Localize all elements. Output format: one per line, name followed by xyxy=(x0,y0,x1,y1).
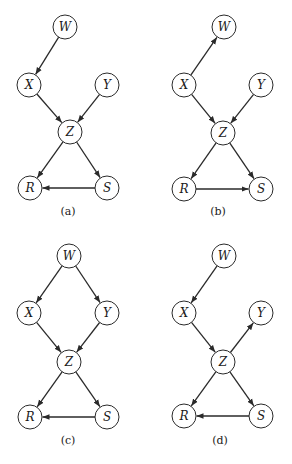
edge-z-to-r xyxy=(191,372,216,406)
panel-c: WXYZRS(c) xyxy=(17,244,119,447)
node-label: W xyxy=(218,20,232,34)
edge-z-to-s xyxy=(230,372,254,406)
node-x: X xyxy=(17,73,41,97)
edge-z-to-r xyxy=(37,142,63,178)
node-label: Y xyxy=(257,306,266,320)
node-label: X xyxy=(179,306,189,320)
node-label: R xyxy=(178,182,188,196)
edge-w-to-x xyxy=(36,266,62,303)
node-r: R xyxy=(172,404,196,428)
panel-b: WXYZRS(b) xyxy=(172,15,273,218)
node-label: Y xyxy=(103,78,112,92)
node-label: S xyxy=(103,410,111,424)
node-label: Y xyxy=(103,306,112,320)
node-s: S xyxy=(249,404,273,428)
panel-caption: (b) xyxy=(210,205,226,218)
edge-z-to-r xyxy=(191,143,216,179)
node-label: Z xyxy=(65,125,75,139)
edge-x-to-z xyxy=(37,94,62,123)
node-label: X xyxy=(24,306,34,320)
node-label: R xyxy=(24,181,34,195)
node-label: S xyxy=(257,409,265,423)
edge-z-to-s xyxy=(77,142,101,178)
node-label: S xyxy=(103,181,111,195)
node-s: S xyxy=(249,177,273,201)
edge-y-to-z xyxy=(78,94,100,122)
node-w: W xyxy=(53,15,77,39)
edge-x-to-z xyxy=(37,322,62,352)
node-w: W xyxy=(212,15,236,39)
panel-caption: (c) xyxy=(61,434,76,447)
node-y: Y xyxy=(95,73,119,97)
node-y: Y xyxy=(249,301,273,325)
node-label: Z xyxy=(218,355,228,369)
node-z: Z xyxy=(211,350,235,374)
edge-w-to-x xyxy=(36,37,59,74)
edge-x-to-z xyxy=(192,94,216,123)
node-r: R xyxy=(18,405,42,429)
node-label: W xyxy=(63,249,77,263)
panel-caption: (a) xyxy=(60,205,75,218)
edge-w-to-x xyxy=(191,266,217,303)
edge-x-to-z xyxy=(192,322,216,352)
edge-z-to-s xyxy=(76,372,100,407)
edge-y-to-z xyxy=(77,323,100,353)
edge-z-to-s xyxy=(230,143,254,179)
node-s: S xyxy=(95,405,119,429)
node-label: Y xyxy=(257,78,266,92)
node-label: W xyxy=(59,20,73,34)
edge-w-to-y xyxy=(76,266,100,303)
node-r: R xyxy=(18,176,42,200)
panels-root: WXYZRS(a)WXYZRS(b)WXYZRS(c)WXYZRS(d) xyxy=(17,15,273,447)
node-label: R xyxy=(178,409,188,423)
node-w: W xyxy=(212,244,236,268)
node-label: R xyxy=(24,410,34,424)
node-x: X xyxy=(172,301,196,325)
panel-a: WXYZRS(a) xyxy=(17,15,119,218)
node-label: W xyxy=(218,249,232,263)
node-label: Z xyxy=(64,355,74,369)
node-w: W xyxy=(57,244,81,268)
node-y: Y xyxy=(95,301,119,325)
edge-y-to-z xyxy=(231,94,254,123)
node-label: Z xyxy=(218,126,228,140)
node-s: S xyxy=(95,176,119,200)
node-label: X xyxy=(179,78,189,92)
node-z: Z xyxy=(58,120,82,144)
panel-d: WXYZRS(d) xyxy=(172,244,273,447)
node-r: R xyxy=(172,177,196,201)
edge-z-to-y xyxy=(230,323,253,353)
node-label: X xyxy=(24,78,34,92)
edge-z-to-r xyxy=(37,372,62,407)
node-z: Z xyxy=(211,121,235,145)
edge-x-to-w xyxy=(191,37,217,75)
node-z: Z xyxy=(57,350,81,374)
node-x: X xyxy=(172,73,196,97)
node-y: Y xyxy=(249,73,273,97)
node-x: X xyxy=(17,301,41,325)
causal-graph-figure: WXYZRS(a)WXYZRS(b)WXYZRS(c)WXYZRS(d) xyxy=(0,0,292,464)
panel-caption: (d) xyxy=(212,434,228,447)
node-label: S xyxy=(257,182,265,196)
